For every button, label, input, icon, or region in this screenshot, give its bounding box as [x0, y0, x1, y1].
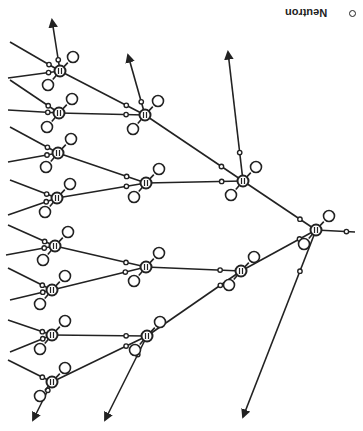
fission-fragment-icon [38, 255, 49, 266]
neutron-icon [42, 239, 46, 243]
fission-fragment-icon [154, 248, 165, 259]
fission-fragment-icon [249, 252, 260, 263]
neutron-icon [44, 192, 48, 196]
neutron-icon [124, 174, 128, 178]
neutron-icon [41, 337, 45, 341]
neutron-icon [41, 290, 45, 294]
neutron-icon [56, 58, 60, 62]
fission-fragment-icon [129, 192, 140, 203]
uranium-nucleus-icon [54, 108, 65, 119]
escaping-neutron-path [128, 55, 145, 115]
fission-fragment-icon [60, 363, 71, 374]
uranium-nucleus-icon [47, 285, 58, 296]
fission-fragment-icon [130, 345, 141, 356]
uranium-nucleus-icon [55, 66, 66, 77]
neutron-icon [298, 269, 302, 273]
neutron-icon [219, 179, 223, 183]
neutron-icon [46, 70, 50, 74]
uranium-nucleus-icon [47, 377, 58, 388]
neutron-path [10, 42, 60, 71]
fission-fragment-icon [41, 162, 52, 173]
neutron-path [59, 113, 145, 115]
neutron-icon [40, 330, 44, 334]
uranium-nucleus-icon [142, 331, 153, 342]
neutron-icon [44, 200, 48, 204]
neutron-icon [218, 283, 222, 287]
uranium-nucleus-icon [52, 193, 63, 204]
fission-fragment-icon [251, 162, 262, 173]
escaping-neutron-path [228, 52, 243, 181]
neutron-icon [45, 153, 49, 157]
neutron-icon [46, 110, 50, 114]
neutron-icon [42, 246, 46, 250]
neutron-path [52, 336, 147, 382]
nucleus-gen4-8 [35, 363, 71, 402]
neutron-paths [6, 20, 355, 420]
fission-fragment-icon [60, 271, 71, 282]
neutron-path [55, 246, 146, 267]
nucleus-gen4-4 [40, 179, 76, 218]
fission-fragment-icon [153, 96, 164, 107]
fission-fragment-icon [65, 179, 76, 190]
fission-fragment-icon [60, 316, 71, 327]
neutron-icon [123, 270, 127, 274]
nuclei [35, 52, 335, 402]
fission-fragment-icon [35, 391, 46, 402]
fission-fragment-icon [224, 280, 235, 291]
neutron-path [52, 335, 147, 336]
neutron-icon [238, 150, 242, 154]
neutron-path [8, 71, 60, 78]
uranium-nucleus-icon [53, 148, 64, 159]
neutron-icon [219, 164, 223, 168]
neutron-icon [124, 344, 128, 348]
uranium-nucleus-icon [50, 241, 61, 252]
diagram-canvas [0, 0, 363, 431]
neutron-icon [344, 229, 348, 233]
fission-fragment-icon [155, 317, 166, 328]
uranium-nucleus-icon [140, 110, 151, 121]
neutron-path [10, 180, 57, 198]
neutron-icon [124, 334, 128, 338]
fission-fragment-icon [324, 211, 335, 222]
fission-fragment-icon [42, 122, 53, 133]
neutron-icon [124, 103, 128, 107]
neutron-path [8, 268, 52, 290]
neutron-icon [40, 375, 44, 379]
fission-fragment-icon [43, 80, 54, 91]
neutron-icon [139, 100, 143, 104]
neutron-icon [124, 260, 128, 264]
neutron-path [243, 181, 316, 230]
uranium-nucleus-icon [311, 225, 322, 236]
fission-fragment-icon [63, 227, 74, 238]
neutron-path [8, 360, 52, 382]
neutron-icon [298, 217, 302, 221]
fission-fragment-icon [154, 164, 165, 175]
neutron-path [146, 267, 241, 271]
neutron-path [8, 225, 55, 246]
fission-fragment-icon [68, 52, 79, 63]
neutron-icon [40, 283, 44, 287]
legend-neutron-label: Neutron [285, 7, 327, 19]
fission-fragment-icon [67, 94, 78, 105]
legend: Neutron [0, 0, 363, 40]
neutron-icon [47, 62, 51, 66]
neutron-path [8, 320, 52, 335]
uranium-nucleus-icon [238, 176, 249, 187]
uranium-nucleus-icon [141, 178, 152, 189]
neutron-icon [46, 104, 50, 108]
uranium-nucleus-icon [236, 266, 247, 277]
fission-fragment-icon [35, 299, 46, 310]
uranium-nucleus-icon [47, 330, 58, 341]
fission-fragment-icon [226, 190, 237, 201]
uranium-nucleus-icon [141, 262, 152, 273]
fission-fragment-icon [129, 276, 140, 287]
nucleus-gen4-6 [35, 271, 71, 310]
fission-fragment-icon [66, 134, 77, 145]
neutron-icon [218, 268, 222, 272]
neutron-path [241, 230, 316, 271]
neutron-icon [124, 184, 128, 188]
neutron-icon [45, 145, 49, 149]
fission-fragment-icon [35, 344, 46, 355]
neutron-icon [349, 10, 356, 17]
chain-reaction-diagram: Neutron [0, 0, 363, 431]
